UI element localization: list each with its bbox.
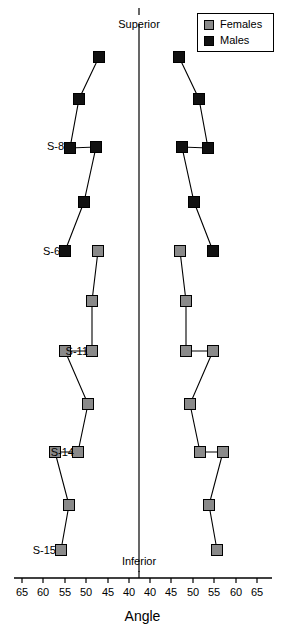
- marker-females-left-4: [83, 399, 94, 410]
- marker-females-right-0: [175, 246, 186, 257]
- x-tick-label-L0: 65: [16, 587, 28, 598]
- axis-layer: [14, 8, 272, 583]
- marker-females-left-7: [64, 500, 75, 511]
- marker-males-left-3: [91, 142, 102, 153]
- x-tick-label-L2: 55: [59, 587, 71, 598]
- x-tick-label-L4: 45: [102, 587, 114, 598]
- marker-females-right-3: [208, 346, 219, 357]
- x-tick-label-L5: 40: [123, 587, 135, 598]
- marker-females-left-5: [73, 447, 84, 458]
- marker-males-right-4: [189, 197, 200, 208]
- site-label-s-14: S-14: [51, 447, 74, 458]
- x-axis-title: Angle: [0, 608, 285, 624]
- marker-males-left-1: [74, 94, 85, 105]
- marker-females-left-8: [56, 545, 67, 556]
- legend-entry-males: Males: [204, 35, 249, 46]
- marker-males-left-0: [94, 52, 105, 63]
- marker-females-left-0: [93, 246, 104, 257]
- marker-males-right-0: [174, 52, 185, 63]
- marker-females-right-8: [212, 545, 223, 556]
- legend-entry-females: Females: [204, 19, 262, 30]
- pole-label-inferior: Inferior: [122, 556, 156, 567]
- legend-label-males: Males: [220, 35, 249, 46]
- x-tick-label-R3: 55: [208, 587, 220, 598]
- marker-males-right-3: [177, 142, 188, 153]
- marker-males-left-5: [60, 246, 71, 257]
- marker-males-left-4: [79, 197, 90, 208]
- marker-females-left-2: [87, 346, 98, 357]
- x-tick-label-R1: 45: [165, 587, 177, 598]
- legend-swatch-males-icon: [204, 36, 214, 46]
- x-tick-label-R5: 65: [251, 587, 263, 598]
- marker-males-left-2: [65, 143, 76, 154]
- marker-males-right-5: [208, 246, 219, 257]
- marker-males-right-1: [194, 94, 205, 105]
- site-label-s-6: S-6: [43, 246, 60, 257]
- x-tick-label-R0: 40: [144, 587, 156, 598]
- site-label-s-8: S-8: [47, 141, 64, 152]
- site-label-s-15: S-15: [33, 545, 56, 556]
- x-tick-label-R4: 60: [230, 587, 242, 598]
- marker-females-right-7: [204, 500, 215, 511]
- legend-swatch-females-icon: [204, 20, 214, 30]
- pole-label-superior: Superior: [118, 19, 160, 30]
- marker-females-right-6: [218, 447, 229, 458]
- x-tick-label-R2: 50: [187, 587, 199, 598]
- marker-females-left-1: [87, 296, 98, 307]
- marker-females-right-2: [181, 346, 192, 357]
- chart-legend: Females Males: [197, 13, 274, 52]
- legend-label-females: Females: [220, 19, 262, 30]
- marker-females-right-4: [185, 399, 196, 410]
- marker-females-right-1: [181, 296, 192, 307]
- x-tick-label-L1: 60: [37, 587, 49, 598]
- marker-females-right-5: [195, 447, 206, 458]
- marker-males-right-2: [203, 143, 214, 154]
- plot-svg: [0, 0, 285, 637]
- site-label-s-11: S-11: [66, 346, 88, 357]
- x-tick-label-L3: 50: [80, 587, 92, 598]
- chart-figure: Superior Inferior 6560555045404045505560…: [0, 0, 285, 637]
